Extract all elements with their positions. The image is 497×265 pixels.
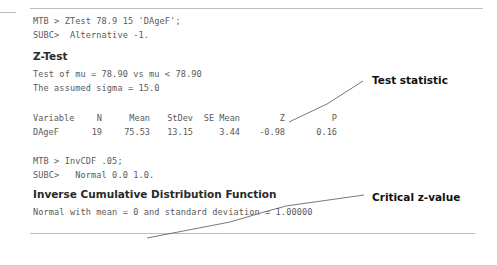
leader-lines	[0, 0, 497, 265]
critical-value-leader	[147, 195, 364, 238]
test-statistic-leader	[289, 81, 363, 122]
